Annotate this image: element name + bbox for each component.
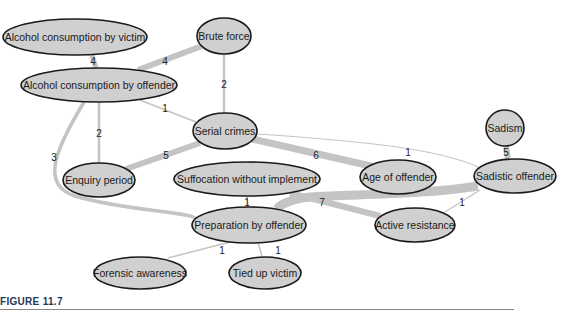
edge-weight-label: 7 [319,197,325,208]
node-label: Sadism [487,122,522,134]
edge-weight-label: 5 [163,150,169,161]
node-suffocation-without-implement: Suffocation without implement [174,162,320,196]
node-label: Enquiry period [65,174,133,186]
edge-alcohol-offender-to-preparation [55,102,195,218]
node-label: Suffocation without implement [177,173,317,185]
edge-weight-label: 3 [51,152,57,163]
edge-weight-label: 1 [219,245,225,256]
edge-alcohol-offender-to-serial-crimes [140,100,196,122]
node-sadistic-offender: Sadistic offender [474,159,556,193]
edge-weight-label: 1 [162,103,168,114]
edge-brute-force-to-alcohol-offender [138,46,202,70]
node-label: Brute force [198,30,250,42]
edge-weight-label: 5 [503,147,509,158]
node-age-of-offender: Age of offender [360,160,436,194]
edge-weight-label: 1 [244,197,250,208]
edge-weight-label: 1 [459,197,465,208]
edge-weight-label: 2 [96,128,102,139]
node-preparation-by-offender: Preparation by offender [192,207,306,243]
node-label: Forensic awareness [93,267,187,279]
caption-divider [0,309,514,310]
node-label: Tied up victim [233,267,298,279]
node-tied-up-victim: Tied up victim [229,257,301,289]
node-label: Alcohol consumption by offender [23,79,176,91]
node-label: Active resistance [375,219,455,231]
node-brute-force: Brute force [197,18,251,54]
node-sadism: Sadism [486,110,524,146]
edge-weight-label: 1 [405,147,411,158]
node-active-resistance: Active resistance [375,208,455,242]
node-alcohol-consumption-by-offender: Alcohol consumption by offender [21,68,177,102]
edge-weight-label: 1 [275,245,281,256]
node-alcohol-consumption-by-victim: Alcohol consumption by victim [3,19,147,55]
edge-weight-label: 4 [90,56,96,67]
node-enquiry-period: Enquiry period [63,163,135,197]
node-label: Alcohol consumption by victim [5,31,146,43]
node-forensic-awareness: Forensic awareness [93,257,187,289]
edge-weight-label: 4 [162,56,168,67]
edge-preparation-to-tied-up-victim [258,243,262,256]
network-diagram: 4 4 2 1 2 3 5 6 1 5 7 1 1 1 1 Alcohol co… [0,0,564,290]
node-serial-crimes: Serial crimes [193,113,257,149]
node-label: Sadistic offender [476,170,555,182]
node-label: Serial crimes [195,125,256,137]
node-label: Preparation by offender [194,219,304,231]
edge-weight-label: 2 [221,79,227,90]
figure-caption: FIGURE 11.7 [0,296,63,307]
node-label: Age of offender [362,171,434,183]
edge-weight-label: 6 [313,150,319,161]
